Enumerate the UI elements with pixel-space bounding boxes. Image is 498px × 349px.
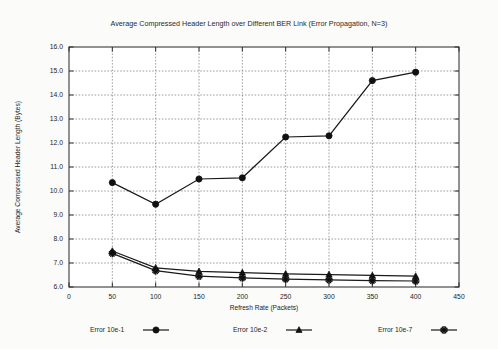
y-tick-label: 13.0 [50, 115, 63, 122]
data-point-marker [369, 78, 375, 84]
y-tick-label: 7.0 [54, 259, 64, 266]
data-point-marker [283, 134, 289, 140]
y-tick-label: 8.0 [54, 235, 64, 242]
y-tick-label: 10.0 [50, 187, 63, 194]
data-point-marker [109, 180, 115, 186]
y-tick-label: 15.0 [50, 67, 63, 74]
x-tick-label: 400 [410, 293, 422, 300]
chart-title: Average Compressed Header Length over Di… [111, 19, 388, 28]
y-tick-label: 12.0 [50, 139, 63, 146]
data-point-marker [239, 175, 245, 181]
x-tick-label: 200 [237, 293, 249, 300]
x-tick-label: 0 [67, 293, 71, 300]
y-tick-label: 11.0 [50, 163, 63, 170]
legend-label: Error 10e-2 [233, 326, 268, 333]
y-axis-label: Average Compressed Header Length (Bytes) [14, 101, 22, 233]
x-tick-label: 150 [193, 293, 205, 300]
data-point-marker [196, 176, 202, 182]
y-tick-label: 16.0 [50, 43, 63, 50]
y-tick-label: 6.0 [54, 283, 64, 290]
y-tick-label: 14.0 [50, 91, 63, 98]
line-chart: Average Compressed Header Length over Di… [0, 0, 498, 349]
legend-label: Error 10e-1 [90, 326, 125, 333]
x-tick-label: 50 [109, 293, 117, 300]
x-axis-label: Refresh Rate (Packets) [230, 304, 299, 312]
data-point-marker [326, 133, 332, 139]
x-tick-label: 450 [453, 293, 465, 300]
data-point-marker [413, 69, 419, 75]
x-tick-label: 250 [280, 293, 292, 300]
legend-label: Error 10e-7 [378, 326, 413, 333]
y-tick-label: 9.0 [54, 211, 64, 218]
data-point-marker [153, 327, 159, 333]
x-tick-label: 100 [150, 293, 162, 300]
chart-figure: Average Compressed Header Length over Di… [0, 0, 498, 349]
x-tick-label: 350 [367, 293, 379, 300]
x-tick-label: 300 [323, 293, 335, 300]
data-point-marker [153, 201, 159, 207]
